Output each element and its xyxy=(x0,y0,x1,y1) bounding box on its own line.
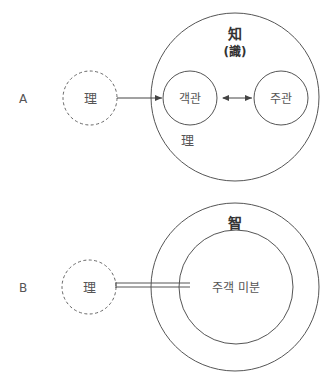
outer-title-a: 知 xyxy=(228,26,242,42)
outer-inner-label-a: 理 xyxy=(181,133,194,148)
diagram-a: A 理 知 (識) 理 객관 주관 xyxy=(19,13,319,181)
object-label: 객관 xyxy=(179,92,201,106)
outer-title-b: 智 xyxy=(227,215,242,231)
source-label-b: 理 xyxy=(83,280,96,295)
outer-subtitle-a: (識) xyxy=(224,44,247,59)
subject-label: 주관 xyxy=(270,92,292,106)
diagram-canvas: A 理 知 (識) 理 객관 주관 B 理 智 주객 미분 xyxy=(0,0,335,387)
source-label-a: 理 xyxy=(84,91,97,106)
diagram-b: B 理 智 주객 미분 xyxy=(19,203,319,371)
row-label-b: B xyxy=(19,281,27,295)
inner-label-b: 주객 미분 xyxy=(212,281,260,295)
row-label-a: A xyxy=(19,92,28,106)
